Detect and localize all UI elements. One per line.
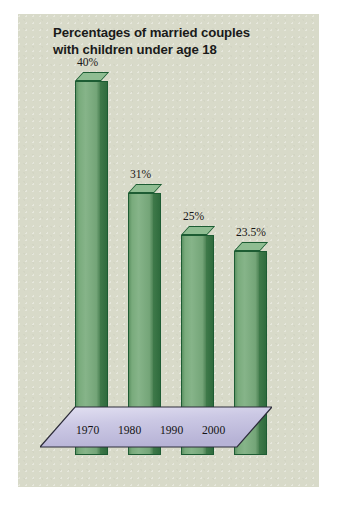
- platform-surface: [40, 407, 272, 447]
- platform-svg: [40, 405, 272, 449]
- figure-root: Percentages of married couples with chil…: [0, 0, 337, 505]
- paper-panel: Percentages of married couples with chil…: [18, 14, 319, 487]
- bar-value-label-1980: 31%: [130, 168, 151, 181]
- bar-top-face-1970: [75, 72, 109, 81]
- plot-area: 40% 31% 25% 23.5%: [18, 14, 319, 487]
- bar-value-label-1970: 40%: [77, 56, 98, 69]
- bar-top-face-1990: [181, 226, 215, 235]
- bar-front-face-1970: [75, 81, 101, 455]
- bar-top-face-2000: [234, 242, 268, 251]
- chart-base-platform: [40, 405, 272, 449]
- bar-value-label-2000: 23.5%: [236, 226, 266, 239]
- bar-value-label-1990: 25%: [183, 210, 204, 223]
- bar-1970: [75, 72, 109, 455]
- bar-side-face-1970: [100, 81, 108, 455]
- bar-top-face-1980: [128, 184, 162, 193]
